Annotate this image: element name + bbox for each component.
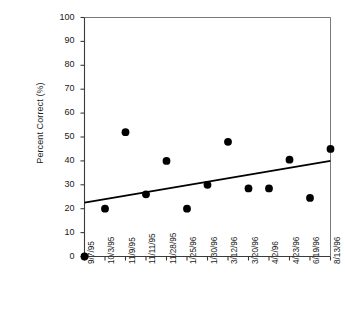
data-point [204, 181, 212, 189]
data-point [81, 253, 89, 261]
data-point [183, 205, 191, 213]
y-axis-ticks [81, 18, 85, 257]
data-point [224, 138, 232, 146]
data-points [81, 128, 335, 260]
data-point [306, 194, 314, 202]
data-point [286, 156, 294, 164]
data-point [265, 184, 273, 192]
data-point [245, 184, 253, 192]
data-point [122, 128, 130, 136]
data-point [101, 205, 109, 213]
data-point [142, 190, 150, 198]
plot-canvas [0, 0, 345, 317]
x-axis-ticks [85, 257, 331, 261]
axis-frame [85, 18, 331, 257]
data-point [327, 145, 335, 153]
data-point [163, 157, 171, 165]
chart-figure: Percent Correct (%) 01020304050607080901… [0, 0, 345, 317]
